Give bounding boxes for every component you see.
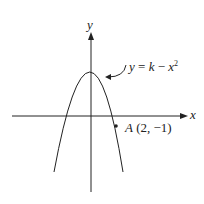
diagram-canvas xyxy=(0,0,204,204)
eq-y: y xyxy=(129,59,135,74)
x-axis-label: x xyxy=(190,108,196,121)
parabola-curve xyxy=(54,72,123,172)
eq-exponent: 2 xyxy=(174,59,178,68)
point-a xyxy=(114,124,118,128)
parabola-diagram: y x y = k − x2 A (2, −1) xyxy=(0,0,204,204)
y-axis-arrow-icon xyxy=(88,32,94,40)
point-name: A xyxy=(125,120,133,135)
curve-equation-label: y = k − x2 xyxy=(129,60,178,73)
eq-minus: − xyxy=(158,59,165,74)
eq-k: k xyxy=(149,59,155,74)
x-axis-arrow-icon xyxy=(180,113,188,119)
pointer-arrow-icon xyxy=(105,74,111,80)
point-coords: (2, −1) xyxy=(136,120,172,135)
eq-equals: = xyxy=(138,59,145,74)
point-a-label: A (2, −1) xyxy=(125,121,172,134)
y-axis-label: y xyxy=(87,18,93,31)
